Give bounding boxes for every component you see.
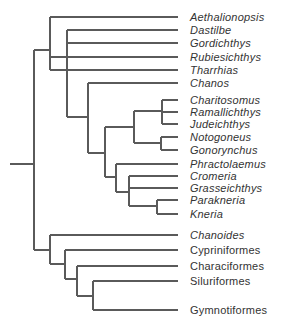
- taxon-label-chanoides: Chanoides: [190, 229, 244, 241]
- taxon-label-judeichthys: Judeichthys: [190, 118, 250, 130]
- taxon-label-notogoneus: Notogoneus: [190, 131, 251, 143]
- taxon-label-siluriformes: Siluriformes: [190, 275, 250, 287]
- taxon-label-aethalionopsis: Aethalionopsis: [190, 11, 264, 23]
- taxon-label-ramallichthys: Ramallichthys: [190, 106, 261, 118]
- taxon-label-gordichthys: Gordichthys: [190, 37, 251, 49]
- taxon-label-dastilbe: Dastilbe: [190, 24, 231, 36]
- taxon-label-tharrhias: Tharrhias: [190, 64, 238, 76]
- taxon-label-parakneria: Parakneria: [190, 194, 245, 206]
- taxon-label-gonorynchus: Gonorynchus: [190, 144, 258, 156]
- taxon-label-characiformes: Characiformes: [190, 260, 264, 272]
- taxon-label-kneria: Kneria: [190, 208, 223, 220]
- taxon-label-phractolaemus: Phractolaemus: [190, 158, 266, 170]
- taxon-label-cypriniformes: Cypriniformes: [190, 244, 260, 256]
- taxon-label-cromeria: Cromeria: [190, 170, 237, 182]
- taxon-label-charitosomus: Charitosomus: [190, 94, 260, 106]
- taxon-label-grasseichthys: Grasseichthys: [190, 182, 262, 194]
- taxon-label-gymnotiformes: Gymnotiformes: [190, 304, 267, 316]
- taxon-label-chanos: Chanos: [190, 77, 229, 89]
- taxon-label-rubiesichthys: Rubiesichthys: [190, 51, 261, 63]
